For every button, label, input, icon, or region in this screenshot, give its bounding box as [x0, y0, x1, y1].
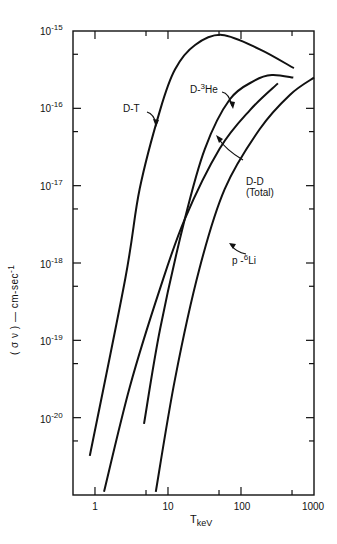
xtick-label-1: 1 [92, 502, 98, 512]
curve-d-3he [144, 75, 293, 424]
xtick-label-10: 10 [162, 502, 173, 512]
curve-d-d-total- [104, 83, 278, 491]
dd-pointer [218, 138, 243, 160]
xtick-label-100: 100 [234, 502, 251, 512]
xtick-label-1000: 1000 [302, 502, 324, 512]
ytick-label-1e-20: 10-20 [40, 413, 63, 425]
ytick-label-1e-19: 10-19 [40, 335, 63, 347]
label-dt: D-T [123, 103, 140, 114]
ytick-label-1e-16: 10-16 [40, 102, 63, 114]
axis-ticks [73, 31, 314, 495]
label-dhe3: D-3He [190, 83, 218, 95]
y-axis-title: ( σ ν ) — cm-sec-1 [6, 265, 20, 355]
ytick-label-1e-17: 10-17 [40, 180, 63, 192]
ytick-label-1e-18: 10-18 [40, 258, 63, 270]
curve-p-6li [156, 78, 314, 492]
pointer-arrowheads [153, 101, 236, 249]
chart-canvas [0, 0, 337, 544]
x-axis-title: TkeV [190, 513, 212, 528]
label-dd-total: D-D(Total) [246, 176, 274, 198]
ytick-label-1e-15: 10-15 [40, 25, 63, 37]
label-p-li6: p -6Li [232, 254, 256, 266]
plot-frame [73, 31, 314, 495]
